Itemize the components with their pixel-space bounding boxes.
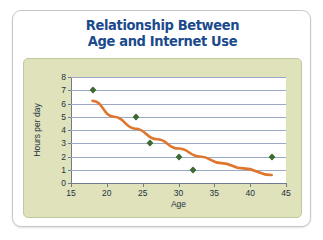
plot-area: 012345678 15202530354045: [71, 77, 286, 183]
x-tick-label: 45: [281, 188, 290, 198]
x-tick-label: 30: [174, 188, 183, 198]
y-tick-label: 5: [61, 112, 66, 122]
x-tick-mark: [143, 184, 144, 187]
x-tick-mark: [71, 184, 72, 187]
x-tick-mark: [179, 184, 180, 187]
x-tick-label: 15: [66, 188, 75, 198]
x-tick-label: 35: [210, 188, 219, 198]
y-tick-label: 7: [61, 85, 66, 95]
chart-card: Relationship Between Age and Internet Us…: [12, 10, 311, 227]
y-tick-label: 6: [61, 99, 66, 109]
x-tick-label: 25: [138, 188, 147, 198]
y-tick-label: 2: [61, 152, 66, 162]
x-axis-label: Age: [71, 199, 286, 209]
chart-panel: Hours per day Age 012345678 152025303540…: [23, 58, 302, 218]
chart-title: Relationship Between Age and Internet Us…: [28, 18, 297, 49]
x-tick-mark: [250, 184, 251, 187]
y-tick-label: 4: [61, 125, 66, 135]
chart-title-line-1: Relationship Between: [28, 18, 297, 34]
y-axis-label: Hours per day: [32, 103, 42, 156]
x-tick-mark: [286, 184, 287, 187]
y-tick-label: 8: [61, 72, 66, 82]
y-tick-label: 0: [61, 178, 66, 188]
x-tick-mark: [107, 184, 108, 187]
y-tick-label: 3: [61, 138, 66, 148]
chart-title-line-2: Age and Internet Use: [28, 34, 297, 50]
y-tick-label: 1: [61, 165, 66, 175]
x-tick-mark: [214, 184, 215, 187]
trendline: [71, 77, 286, 183]
x-tick-label: 20: [102, 188, 111, 198]
x-tick-label: 40: [245, 188, 254, 198]
